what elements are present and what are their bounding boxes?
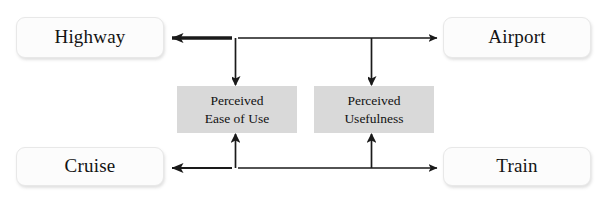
node-train[interactable]: Train	[443, 147, 591, 186]
mediator-perceived-ease-of-use[interactable]: Perceived Ease of Use	[177, 86, 297, 133]
diagram-canvas: Highway Airport Cruise Train Perceived E…	[0, 0, 606, 200]
node-cruise-label: Cruise	[65, 156, 116, 177]
node-cruise[interactable]: Cruise	[16, 147, 164, 186]
mediator-ease-line2: Ease of Use	[205, 110, 269, 127]
mediator-usefulness-line2: Usefulness	[344, 110, 403, 127]
node-airport-label: Airport	[488, 27, 545, 48]
mediator-ease-line1: Perceived	[210, 92, 263, 109]
mediator-usefulness-line1: Perceived	[347, 92, 400, 109]
node-airport[interactable]: Airport	[443, 17, 591, 58]
node-highway[interactable]: Highway	[16, 17, 164, 58]
mediator-perceived-usefulness[interactable]: Perceived Usefulness	[314, 86, 434, 133]
node-train-label: Train	[496, 156, 537, 177]
node-highway-label: Highway	[54, 27, 125, 48]
